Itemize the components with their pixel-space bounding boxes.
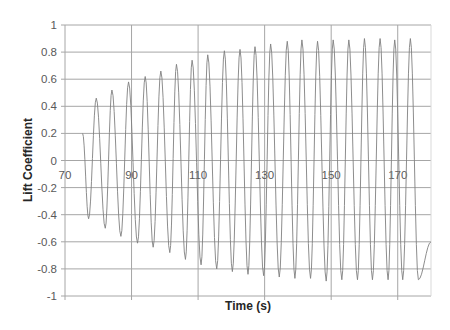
y-tick-label: 1 xyxy=(51,19,57,31)
x-axis-tick-labels: 7090110130150170 xyxy=(59,169,408,181)
x-axis-title: Time (s) xyxy=(225,299,271,313)
lift-coefficient-chart: 10.80.60.40.20-0.2-0.4-0.6-0.8-1 7090110… xyxy=(0,0,450,330)
y-tick-label: -0.6 xyxy=(37,236,57,248)
y-axis-tick-labels: 10.80.60.40.20-0.2-0.4-0.6-0.8-1 xyxy=(37,19,57,302)
y-tick-label: 0.8 xyxy=(41,46,57,58)
y-tick-label: 0 xyxy=(51,155,57,167)
y-tick-label: 0.4 xyxy=(41,100,58,112)
x-tick-label: 70 xyxy=(59,169,72,181)
y-tick-label: -0.8 xyxy=(37,263,57,275)
x-tick-label: 90 xyxy=(125,169,138,181)
lift-coefficient-line xyxy=(83,39,431,282)
y-tick-label: 0.6 xyxy=(41,73,57,85)
y-axis-title: Lift Coefficient xyxy=(21,118,35,202)
y-tick-label: -0.4 xyxy=(37,209,57,221)
y-tick-label: -1 xyxy=(47,290,57,302)
y-tick-label: -0.2 xyxy=(37,182,57,194)
x-tick-label: 130 xyxy=(255,169,274,181)
y-tick-label: 0.2 xyxy=(41,127,57,139)
